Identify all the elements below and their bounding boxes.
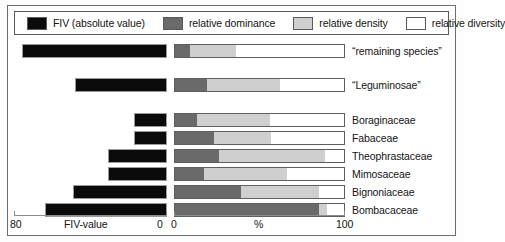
chart-row: Theophrastaceae xyxy=(14,148,449,164)
segment-relative-dominance xyxy=(175,186,241,198)
fiv-bar xyxy=(73,185,167,199)
chart-row: “Leguminosae” xyxy=(14,77,449,93)
fiv-axis-label-min: 0 xyxy=(157,218,163,230)
fiv-bar xyxy=(134,113,167,127)
segment-relative-density xyxy=(204,168,287,180)
segment-relative-diversity xyxy=(287,168,344,180)
segment-relative-density xyxy=(241,186,319,198)
fiv-axis-line xyxy=(14,215,167,216)
fiv-axis-tick-min xyxy=(166,211,167,215)
legend-swatch-relative-dominance xyxy=(163,17,183,30)
legend-item-fiv: FIV (absolute value) xyxy=(27,12,145,34)
percent-stacked-bar xyxy=(174,185,345,199)
legend-swatch-fiv xyxy=(27,17,47,30)
segment-relative-dominance xyxy=(175,132,214,144)
percent-axis-title: % xyxy=(254,218,263,230)
category-label: Fabaceae xyxy=(352,130,398,146)
segment-relative-dominance xyxy=(175,168,204,180)
segment-relative-diversity xyxy=(271,132,344,144)
fiv-bar xyxy=(108,149,167,163)
segment-relative-diversity xyxy=(325,150,344,162)
segment-relative-dominance xyxy=(175,79,207,91)
percent-stacked-bar xyxy=(174,131,345,145)
category-label: “Leguminosae” xyxy=(352,77,421,93)
chart-row: Boraginaceae xyxy=(14,112,449,128)
legend-item-relative-diversity: relative diversity xyxy=(406,12,505,34)
chart-row: “remaining species” xyxy=(14,43,449,59)
segment-relative-diversity xyxy=(280,79,344,91)
plot-area: “remaining species”“Leguminosae”Boragina… xyxy=(14,40,449,230)
legend-item-relative-density: relative density xyxy=(293,12,387,34)
category-label: Boraginaceae xyxy=(352,112,416,128)
percent-axis-label-min: 0 xyxy=(171,218,177,230)
category-label: “remaining species” xyxy=(352,43,442,59)
legend-label-fiv: FIV (absolute value) xyxy=(53,17,145,29)
percent-axis-tick-min xyxy=(174,211,175,215)
segment-relative-density xyxy=(207,79,280,91)
category-label: Bombacaceae xyxy=(352,202,418,218)
legend-label-relative-dominance: relative dominance xyxy=(189,17,275,29)
percent-stacked-bar xyxy=(174,149,345,163)
legend-item-relative-dominance: relative dominance xyxy=(163,12,275,34)
chart-row: Bignoniaceae xyxy=(14,184,449,200)
percent-axis-tick-max xyxy=(344,211,345,215)
chart-row: Mimosaceae xyxy=(14,166,449,182)
segment-relative-dominance xyxy=(175,150,219,162)
legend-swatch-relative-density xyxy=(293,17,313,30)
category-label: Mimosaceae xyxy=(352,166,411,182)
legend-label-relative-diversity: relative diversity xyxy=(432,17,505,29)
percent-stacked-bar xyxy=(174,78,345,92)
chart-row: Fabaceae xyxy=(14,130,449,146)
percent-stacked-bar xyxy=(174,167,345,181)
fiv-bar xyxy=(75,78,167,92)
percent-stacked-bar xyxy=(174,113,345,127)
category-label: Bignoniaceae xyxy=(352,184,414,200)
segment-relative-dominance xyxy=(175,114,197,126)
percent-stacked-bar xyxy=(174,44,345,58)
percent-axis-label-max: 100 xyxy=(336,218,353,230)
fiv-bar xyxy=(22,44,167,58)
fiv-axis-tick-max xyxy=(14,211,15,215)
segment-relative-density xyxy=(214,132,271,144)
fiv-bar xyxy=(134,131,167,145)
fiv-axis-label-max: 80 xyxy=(10,218,21,230)
segment-relative-density xyxy=(219,150,325,162)
segment-relative-dominance xyxy=(175,45,190,57)
segment-relative-diversity xyxy=(270,114,344,126)
segment-relative-diversity xyxy=(236,45,344,57)
legend-label-relative-density: relative density xyxy=(319,17,387,29)
category-label: Theophrastaceae xyxy=(352,148,432,164)
fiv-bar xyxy=(108,167,167,181)
segment-relative-density xyxy=(190,45,236,57)
segment-relative-density xyxy=(197,114,270,126)
chart-legend: FIV (absolute value) relative dominance … xyxy=(14,11,449,35)
percent-axis-line xyxy=(174,215,345,216)
fiv-axis-title: FIV-value xyxy=(64,218,107,230)
segment-relative-diversity xyxy=(319,186,344,198)
legend-swatch-relative-diversity xyxy=(406,17,426,30)
